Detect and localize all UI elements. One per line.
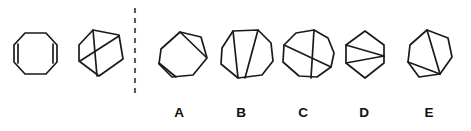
option-a[interactable]: A: [159, 32, 207, 120]
option-e-chord-1: [427, 30, 440, 74]
option-d-chord-2: [346, 56, 384, 63]
prompt-1-outline: [14, 33, 57, 74]
option-c-chord-1: [284, 45, 331, 67]
puzzle-figure: A B C D E: [0, 0, 471, 131]
option-d-chord-1: [346, 45, 384, 56]
prompt-shape-octagon-with-two-vertical-chords: [14, 33, 57, 74]
option-b-chord-1: [233, 31, 238, 78]
option-c-outline[interactable]: [283, 30, 334, 77]
puzzle-canvas: A B C D E: [0, 0, 471, 131]
option-a-chord-2: [159, 63, 176, 77]
option-a-outline[interactable]: [159, 32, 207, 77]
option-c-chord-2: [311, 30, 314, 78]
option-b-label: B: [236, 105, 246, 120]
option-b-chord-2: [245, 30, 258, 78]
option-d[interactable]: D: [346, 31, 384, 120]
prompt-shape-rotated-pentagon-with-two-chords: [79, 30, 123, 76]
option-c-label: C: [298, 105, 308, 120]
option-c[interactable]: C: [283, 30, 334, 120]
option-a-label: A: [174, 105, 184, 120]
option-d-label: D: [359, 105, 369, 120]
prompt-2-chord-2: [80, 36, 119, 61]
option-e-label: E: [424, 105, 433, 120]
option-e[interactable]: E: [408, 30, 452, 120]
option-b[interactable]: B: [221, 30, 273, 120]
